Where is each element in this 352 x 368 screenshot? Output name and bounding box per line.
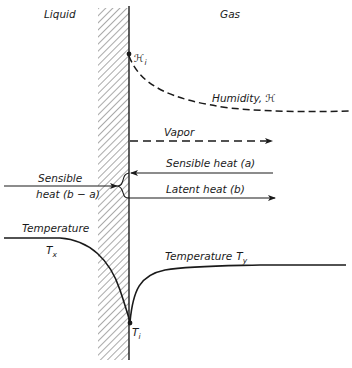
liquid-gas-interface-diagram: Liquid Gas ℋi Humidity, ℋ Vapor Sensible… <box>0 0 352 368</box>
region-label-liquid: Liquid <box>44 8 76 20</box>
region-label-gas: Gas <box>220 8 241 20</box>
latent-heat-b-label: Latent heat (b) <box>166 183 245 195</box>
temperature-liquid-symbol: Tx <box>46 244 57 259</box>
humidity-interface-label: ℋi <box>134 52 147 67</box>
temperature-liquid-label: Temperature <box>22 222 89 234</box>
temperature-interface-label: Ti <box>132 326 141 341</box>
humidity-interface-point <box>127 52 132 57</box>
vapor-label: Vapor <box>164 126 195 138</box>
sensible-heat-b-minus-a-label-line1: Sensible <box>38 172 82 184</box>
temperature-gas-curve <box>130 265 346 322</box>
sensible-heat-a-label: Sensible heat (a) <box>166 157 255 169</box>
temperature-gas-label: TemperatureTy <box>165 250 248 265</box>
sensible-heat-b-minus-a-label-line2: heat (b − a) <box>36 188 100 200</box>
interface-film-hatch <box>98 8 129 360</box>
humidity-curve-label: Humidity, ℋ <box>212 92 276 104</box>
